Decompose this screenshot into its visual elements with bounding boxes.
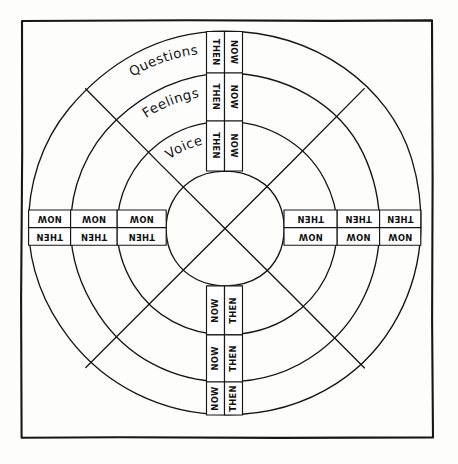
band-top-then-1: THEN — [211, 39, 221, 66]
band-top-now-3: NOW — [229, 133, 239, 157]
band-bottom-now-1: NOW — [210, 298, 220, 322]
band-bottom-now-3: NOW — [210, 386, 220, 410]
ring-label-questions: Questions — [126, 42, 199, 79]
band-right-now-3: NOW — [388, 232, 412, 242]
band-right-then-2: THEN — [345, 214, 372, 224]
band-bottom-then-3: THEN — [228, 385, 238, 412]
axis-band-right: THEN THEN THEN NOW NOW NOW — [284, 210, 421, 245]
diagram-root: THEN THEN THEN NOW NOW NOW NOW NOW NOW T… — [0, 0, 458, 464]
band-left-now-3: NOW — [130, 214, 154, 224]
band-left-now-2: NOW — [82, 214, 106, 224]
axis-band-top: THEN THEN THEN NOW NOW NOW — [207, 32, 243, 172]
concentric-wheel-diagram: THEN THEN THEN NOW NOW NOW NOW NOW NOW T… — [0, 0, 458, 464]
axis-band-left: NOW NOW NOW THEN THEN THEN — [29, 210, 167, 245]
band-bottom-then-1: THEN — [228, 297, 238, 324]
band-left-then-2: THEN — [81, 232, 108, 242]
band-top-then-2: THEN — [211, 83, 221, 110]
band-left-then-3: THEN — [128, 232, 155, 242]
axis-band-bottom: NOW NOW NOW THEN THEN THEN — [207, 286, 243, 415]
ring-label-feelings: Feelings — [140, 85, 201, 120]
band-left-now-1: NOW — [37, 214, 61, 224]
band-bottom-then-2: THEN — [228, 345, 238, 372]
band-top-now-2: NOW — [229, 85, 239, 109]
band-right-now-1: NOW — [298, 232, 322, 242]
band-right-then-3: THEN — [387, 214, 414, 224]
band-top-then-3: THEN — [211, 132, 221, 159]
band-bottom-now-2: NOW — [210, 346, 220, 370]
band-top-now-1: NOW — [229, 40, 239, 64]
band-right-now-2: NOW — [346, 232, 370, 242]
band-left-then-1: THEN — [36, 232, 63, 242]
band-right-then-1: THEN — [297, 214, 324, 224]
